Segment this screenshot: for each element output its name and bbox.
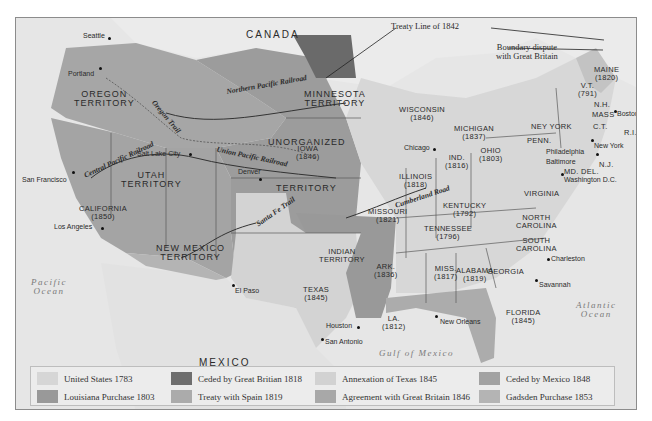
legend-item: Ceded by Mexico 1848 — [479, 371, 619, 386]
city-seattle: Seattle — [83, 32, 105, 39]
city-los-angeles: Los Angeles — [54, 223, 92, 230]
city-dot-los-angeles — [101, 227, 104, 230]
legend-swatch — [37, 390, 58, 403]
city-salt-lake-city: Salt Lake City — [137, 150, 180, 157]
region-new-york: NEY YORK — [531, 123, 572, 131]
city-washington-dc: Washington D.C. — [564, 176, 617, 183]
legend-swatch — [479, 372, 500, 385]
city-dot-seattle — [108, 37, 111, 40]
city-portland: Portland — [68, 70, 94, 77]
region-california: CALIFORNIA(1850) — [79, 205, 127, 220]
city-charleston: Charleston — [551, 255, 585, 262]
city-houston: Houston — [326, 322, 352, 329]
legend-label: Ceded by Mexico 1848 — [506, 374, 590, 384]
legend-item: Ceded by Great Britian 1818 — [171, 371, 311, 386]
region-new-mexico-territory: NEW MEXICOTERRITORY — [156, 244, 225, 262]
city-dot-philadelphia — [596, 153, 599, 156]
city-dot-salt-lake — [189, 153, 192, 156]
region-south-carolina: SOUTHCAROLINA — [516, 237, 557, 252]
region-mississippi: MISS.(1817) — [434, 265, 457, 280]
region-north-carolina: NORTHCAROLINA — [516, 214, 557, 229]
region-oregon-territory: OREGONTERRITORY — [74, 90, 135, 108]
region-maryland-delaware: MD. DEL. — [564, 168, 599, 176]
city-new-orleans: New Orleans — [440, 318, 480, 325]
legend-label: Treaty with Spain 1819 — [198, 392, 282, 402]
region-pennsylvania: PENN. — [527, 137, 551, 145]
territorial-expansion-map: CANADA MEXICO Pacific Ocean Atlantic Oce… — [15, 17, 637, 410]
region-illinois: ILLINOIS(1818) — [399, 173, 432, 188]
legend-item: United States 1783 — [37, 371, 167, 386]
legend-item: Treaty with Spain 1819 — [171, 389, 311, 404]
annotation-boundary-dispute: Boundary dispute with Great Britain — [496, 43, 558, 60]
region-rhode-island: R.I. — [624, 129, 637, 137]
city-dot-savannah — [535, 279, 538, 282]
boundary-line-2: with Great Britain — [496, 52, 558, 61]
city-dot-portland — [99, 67, 102, 70]
region-wisconsin: WISCONSIN(1846) — [399, 106, 445, 121]
region-georgia: GEORGIA — [487, 268, 524, 276]
region-tennessee: TENNESSEE(1796) — [424, 225, 472, 240]
region-unorganized-territory: TERRITORY — [276, 184, 337, 193]
label-atlantic-ocean: Atlantic Ocean — [576, 301, 617, 319]
legend-label: Annexation of Texas 1845 — [342, 374, 437, 384]
legend-swatch — [171, 390, 192, 403]
legend-item: Annexation of Texas 1845 — [315, 371, 475, 386]
city-dot-san-francisco — [72, 171, 75, 174]
legend-swatch — [315, 390, 336, 403]
legend-label: Gadsden Purchase 1853 — [506, 392, 592, 402]
region-indiana: IND.(1816) — [445, 154, 468, 169]
legend-item: Louisiana Purchase 1803 — [37, 389, 167, 404]
label-pacific-ocean: Pacific Ocean — [31, 278, 67, 296]
region-texas: TEXAS(1845) — [303, 286, 329, 301]
city-boston: Boston — [617, 110, 637, 117]
legend-swatch — [479, 390, 500, 403]
region-virginia: VIRGINIA — [524, 190, 559, 198]
map-legend: United States 1783 Ceded by Great Britia… — [30, 366, 615, 406]
region-kentucky: KENTUCKY(1792) — [443, 202, 486, 217]
region-vermont: V.T.(791) — [578, 82, 597, 97]
legend-label: Agreement with Great Britain 1846 — [342, 392, 470, 402]
atlantic-line-2: Ocean — [576, 310, 617, 319]
city-new-york: New York — [594, 142, 624, 149]
legend-label: United States 1783 — [64, 374, 133, 384]
region-louisiana: LA.(1812) — [382, 315, 405, 330]
legend-item: Gadsden Purchase 1853 — [479, 389, 619, 404]
region-maine: MAINE(1820) — [594, 66, 619, 81]
region-missouri: MISSOURI(1821) — [368, 208, 408, 223]
city-philadelphia: Philadelphia — [546, 148, 584, 155]
city-dot-denver — [259, 178, 262, 181]
legend-item: Agreement with Great Britain 1846 — [315, 389, 475, 404]
legend-label: Ceded by Great Britian 1818 — [198, 374, 302, 384]
region-indian-territory: INDIANTERRITORY — [319, 248, 365, 263]
city-denver: Denver — [238, 168, 261, 175]
region-michigan: MICHIGAN(1837) — [454, 125, 494, 140]
city-dot-charleston — [547, 258, 550, 261]
region-iowa: IOWA(1846) — [296, 145, 319, 160]
label-canada: CANADA — [246, 30, 300, 40]
pacific-line-2: Ocean — [31, 287, 67, 296]
region-arkansas: ARK.(1836) — [374, 263, 397, 278]
region-ohio: OHIO(1803) — [479, 147, 502, 162]
region-new-jersey: N.J. — [599, 161, 614, 169]
city-chicago: Chicago — [404, 144, 430, 151]
region-minnesota-territory: MINNESOTATERRITORY — [304, 90, 366, 108]
city-savannah: Savannah — [539, 281, 571, 288]
region-utah-territory: UTAHTERRITORY — [121, 171, 182, 189]
legend-swatch — [315, 372, 336, 385]
legend-swatch — [171, 372, 192, 385]
region-massachusetts: MASS — [592, 111, 614, 119]
label-gulf-of-mexico: Gulf of Mexico — [379, 349, 454, 358]
region-new-hampshire: N.H. — [594, 101, 610, 109]
region-florida: FLORIDA(1845) — [506, 309, 541, 324]
city-baltimore: Baltimore — [546, 158, 576, 165]
city-dot-san-antonio — [321, 338, 324, 341]
region-connecticut: C.T. — [593, 123, 608, 131]
annotation-treaty-line: Treaty Line of 1842 — [391, 22, 459, 31]
city-dot-chicago — [433, 148, 436, 151]
legend-label: Louisiana Purchase 1803 — [64, 392, 154, 402]
city-el-paso: El Paso — [235, 287, 259, 294]
city-san-francisco: San Francisco — [22, 176, 67, 183]
city-dot-houston — [357, 326, 360, 329]
city-dot-new-orleans — [435, 315, 438, 318]
legend-swatch — [37, 372, 58, 385]
